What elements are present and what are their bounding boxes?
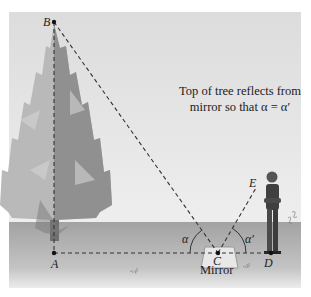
mirror-label: Mirror — [200, 263, 233, 278]
point-A — [52, 251, 56, 255]
caption-line-1: Top of tree reflects from — [170, 83, 310, 99]
mirror-diagram — [0, 0, 311, 297]
label-alpha: α — [182, 233, 188, 245]
label-B: B — [43, 16, 50, 28]
label-D: D — [264, 257, 273, 269]
label-A: A — [51, 258, 58, 270]
label-alpha-prime: α′ — [245, 233, 254, 245]
caption: Top of tree reflects from mirror so that… — [170, 83, 310, 115]
label-E: E — [249, 177, 256, 189]
caption-line-2: mirror so that α = α′ — [170, 99, 310, 115]
point-D — [269, 251, 273, 255]
point-B — [52, 20, 56, 24]
